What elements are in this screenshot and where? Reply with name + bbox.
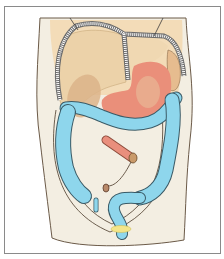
bladder (111, 226, 131, 233)
intestine-opening (129, 153, 137, 163)
stomach-highlight (136, 76, 160, 108)
abdomen-illustration (0, 0, 224, 259)
appendix-opening (103, 184, 109, 192)
